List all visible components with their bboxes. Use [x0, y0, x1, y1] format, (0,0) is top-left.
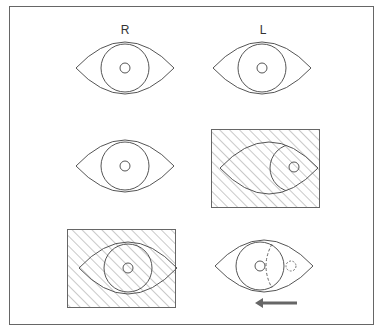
cover-test-diagram: R L: [0, 0, 382, 332]
label-left-eye: L: [260, 23, 267, 37]
label-right-eye: R: [121, 23, 130, 37]
occluder-row2-left: [212, 130, 320, 208]
occluder-row3-right: [68, 230, 176, 308]
